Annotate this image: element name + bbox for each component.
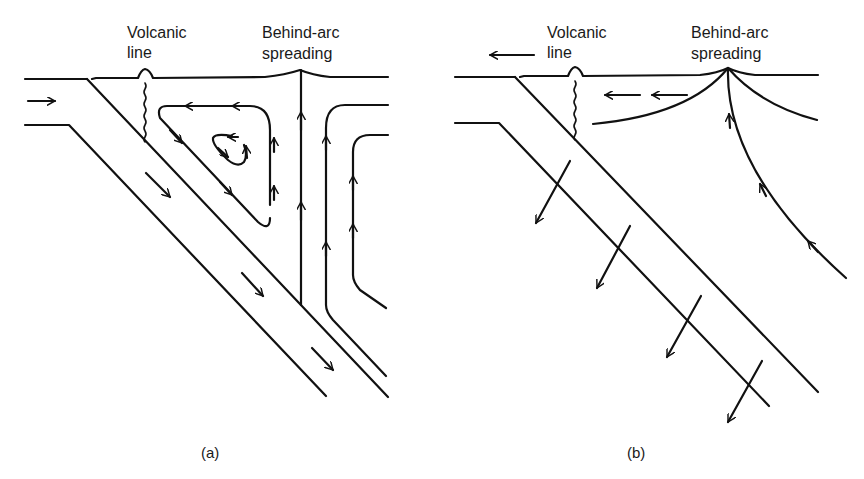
behind-arc-label: Behind-arc xyxy=(691,24,768,41)
volcanic-conduit xyxy=(144,83,146,142)
surface-line xyxy=(25,69,388,79)
volcanic-conduit xyxy=(574,81,576,140)
loop-arrow-down-2 xyxy=(220,182,232,195)
panel-b: Volcanic line Behind-arc spreading (b) xyxy=(455,24,846,461)
slab-arrow-3 xyxy=(312,348,333,370)
behind-arc-label-2: spreading xyxy=(691,45,761,62)
eddy-arrow-3 xyxy=(246,146,247,158)
panel-a: Volcanic line Behind-arc spreading xyxy=(25,24,388,461)
inner-eddy xyxy=(213,135,246,165)
loop-arrow-down-1 xyxy=(170,130,182,143)
slab-arrow-4 xyxy=(728,361,762,422)
volcanic-line-label: Volcanic xyxy=(547,24,607,41)
surface-line xyxy=(455,67,818,77)
corner-flow-loop xyxy=(159,106,270,226)
volcanic-line-label-2: line xyxy=(127,44,152,61)
caption-a: (a) xyxy=(201,444,219,461)
behind-arc-label: Behind-arc xyxy=(262,24,339,41)
slab-upper-boundary xyxy=(515,77,818,392)
slab-arrow-2 xyxy=(597,226,630,288)
upwelling-arrow-3 xyxy=(808,241,818,252)
behind-arc-label-2: spreading xyxy=(262,45,332,62)
upwelling-curve xyxy=(728,68,846,278)
slab-arrow-2 xyxy=(242,273,263,296)
right-flowline-2 xyxy=(353,135,388,308)
slab-arrow-1 xyxy=(146,173,170,197)
slab-lower-boundary xyxy=(455,123,769,406)
slab-lower-boundary xyxy=(25,125,326,396)
caption-b: (b) xyxy=(627,444,645,461)
slab-upper-boundary xyxy=(87,79,388,397)
upwelling-arrow-1 xyxy=(729,114,730,128)
right-flowline-1 xyxy=(326,105,388,376)
volcanic-line-label-2: line xyxy=(547,44,572,61)
volcanic-line-label: Volcanic xyxy=(127,24,187,41)
subduction-figure: Volcanic line Behind-arc spreading xyxy=(0,0,864,479)
